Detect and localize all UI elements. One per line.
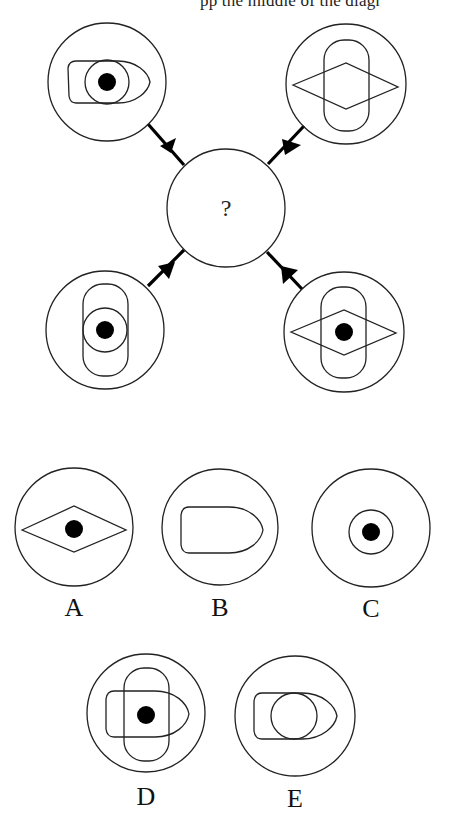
option-b-label: B (211, 593, 228, 622)
connector-bottom-right (267, 252, 302, 289)
black-dot (65, 520, 83, 538)
puzzle-diagram: ? A B (0, 0, 454, 830)
option-d-label: D (137, 782, 156, 811)
input-circle-bottom-left (46, 271, 164, 389)
black-dot (98, 73, 116, 91)
option-a-label: A (65, 593, 84, 622)
diamond (293, 63, 398, 109)
connector-bottom-left (148, 250, 184, 286)
option-b[interactable]: B (162, 469, 278, 622)
option-d[interactable]: D (87, 654, 205, 811)
option-e-label: E (287, 784, 303, 813)
vertical-stadium (324, 40, 369, 131)
connector-top-right (268, 126, 304, 164)
input-circle-top-right (286, 24, 406, 144)
black-dot (137, 706, 155, 724)
bullet-shape (181, 507, 263, 553)
option-c-label: C (362, 594, 379, 623)
center-circle: ? (167, 149, 285, 267)
black-dot (96, 321, 114, 339)
small-circle (271, 693, 317, 739)
black-dot (362, 523, 380, 541)
option-a[interactable]: A (15, 468, 133, 622)
input-circle-bottom-right (284, 272, 404, 392)
question-mark: ? (221, 195, 232, 221)
option-c[interactable]: C (312, 469, 430, 623)
option-e[interactable]: E (235, 656, 355, 813)
black-dot (335, 323, 353, 341)
input-circle-top-left (48, 23, 166, 141)
connector-top-left (148, 124, 184, 165)
bullet-shape (254, 693, 337, 739)
